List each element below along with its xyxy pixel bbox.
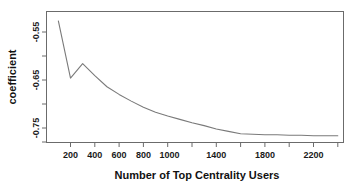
x-tick-label-200: 200 — [63, 150, 78, 160]
plot-frame — [47, 12, 344, 143]
x-tick-label-2200: 2200 — [303, 150, 323, 160]
chart-figure: -0.55 -0.65 -0.75 coefficient 200 400 60… — [0, 0, 359, 190]
x-axis-ticks — [71, 143, 338, 148]
y-tick-label-minus075: -0.75 — [31, 118, 41, 139]
x-tick-label-1000: 1000 — [159, 150, 179, 160]
y-axis-ticks — [42, 32, 47, 142]
x-axis-title: Number of Top Centrality Users — [115, 169, 280, 181]
chart-svg: -0.55 -0.65 -0.75 coefficient 200 400 60… — [0, 0, 359, 190]
x-tick-label-800: 800 — [136, 150, 151, 160]
x-tick-label-600: 600 — [112, 150, 127, 160]
x-tick-label-400: 400 — [87, 150, 102, 160]
y-tick-label-minus055: -0.55 — [31, 22, 41, 43]
data-series-coefficient — [58, 21, 337, 136]
y-tick-label-minus065: -0.65 — [31, 70, 41, 91]
x-tick-label-1800: 1800 — [255, 150, 275, 160]
x-tick-label-1400: 1400 — [206, 150, 226, 160]
y-axis-title: coefficient — [6, 49, 18, 104]
